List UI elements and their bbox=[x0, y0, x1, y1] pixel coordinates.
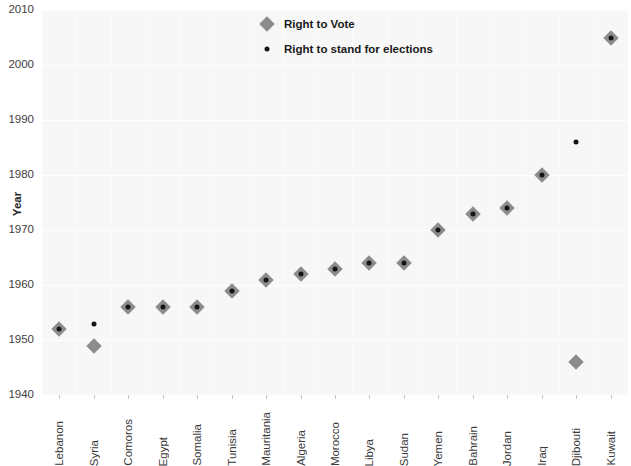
gridline-vertical bbox=[283, 10, 284, 395]
gridline-vertical bbox=[421, 10, 422, 395]
data-point-right-to-stand[interactable] bbox=[470, 211, 475, 216]
x-axis-tick-mark bbox=[576, 395, 577, 399]
x-axis-tick-mark bbox=[404, 395, 405, 399]
legend-item-right-to-vote[interactable]: Right to Vote bbox=[258, 14, 433, 33]
gridline-vertical bbox=[145, 10, 146, 395]
x-axis-tick-label: Iraq bbox=[536, 446, 548, 466]
gridline-horizontal bbox=[42, 285, 628, 286]
gridline-vertical bbox=[352, 10, 353, 395]
x-axis-tick-mark bbox=[335, 395, 336, 399]
x-axis-tick-label: Tunisia bbox=[226, 429, 238, 466]
gridline-vertical bbox=[525, 10, 526, 395]
x-axis-tick-label: Kuwait bbox=[605, 431, 617, 466]
x-axis-tick-label: Jordan bbox=[501, 431, 513, 466]
x-axis-tick-mark bbox=[369, 395, 370, 399]
x-axis-tick-mark bbox=[611, 395, 612, 399]
gridline-horizontal bbox=[42, 340, 628, 341]
data-point-right-to-stand[interactable] bbox=[333, 266, 338, 271]
x-axis-tick-mark bbox=[438, 395, 439, 399]
x-axis-tick-label: Libya bbox=[363, 439, 375, 466]
x-axis-tick-mark bbox=[507, 395, 508, 399]
x-axis-tick-mark bbox=[94, 395, 95, 399]
x-axis-tick-labels: LebanonSyriaComorosEgyptSomaliaTunisiaMa… bbox=[42, 395, 628, 466]
chart-legend: Right to Vote Right to stand for electio… bbox=[258, 14, 433, 64]
dot-marker-icon bbox=[258, 42, 276, 56]
x-axis-tick-label: Lebanon bbox=[53, 421, 65, 466]
x-axis-tick-mark bbox=[266, 395, 267, 399]
data-point-right-to-stand[interactable] bbox=[574, 140, 579, 145]
x-axis-tick-mark bbox=[473, 395, 474, 399]
x-axis-tick-label: Syria bbox=[88, 440, 100, 466]
x-axis-tick-mark bbox=[232, 395, 233, 399]
gridline-horizontal bbox=[42, 120, 628, 121]
y-axis-tick-label: 1940 bbox=[8, 388, 34, 400]
x-axis-tick-label: Djibouti bbox=[570, 428, 582, 466]
x-axis-tick-label: Morocco bbox=[329, 422, 341, 466]
data-point-right-to-stand[interactable] bbox=[436, 228, 441, 233]
gridline-vertical bbox=[456, 10, 457, 395]
data-point-right-to-stand[interactable] bbox=[505, 206, 510, 211]
gridline-vertical bbox=[214, 10, 215, 395]
legend-item-label: Right to Vote bbox=[284, 18, 355, 30]
legend-item-label: Right to stand for elections bbox=[284, 43, 433, 55]
x-axis-tick-label: Somalia bbox=[191, 424, 203, 466]
diamond-marker-icon bbox=[258, 17, 276, 31]
gridline-vertical bbox=[111, 10, 112, 395]
data-point-right-to-vote[interactable] bbox=[569, 354, 585, 370]
x-axis-tick-mark bbox=[301, 395, 302, 399]
gridline-vertical bbox=[490, 10, 491, 395]
x-axis-tick-label: Comoros bbox=[122, 419, 134, 466]
x-axis-tick-mark bbox=[59, 395, 60, 399]
data-point-right-to-stand[interactable] bbox=[264, 277, 269, 282]
gridline-vertical bbox=[387, 10, 388, 395]
y-axis-tick-label: 2010 bbox=[8, 3, 34, 15]
gridline-vertical bbox=[559, 10, 560, 395]
gridline-vertical bbox=[76, 10, 77, 395]
x-axis-tick-label: Yemen bbox=[432, 431, 444, 466]
x-axis-tick-label: Sudan bbox=[398, 433, 410, 466]
data-point-right-to-stand[interactable] bbox=[160, 305, 165, 310]
gridline-vertical bbox=[594, 10, 595, 395]
data-point-right-to-stand[interactable] bbox=[57, 327, 62, 332]
legend-item-right-to-stand[interactable]: Right to stand for elections bbox=[258, 39, 433, 58]
data-point-right-to-stand[interactable] bbox=[608, 35, 613, 40]
data-point-right-to-stand[interactable] bbox=[367, 261, 372, 266]
y-axis-title: Year bbox=[11, 174, 23, 234]
gridline-horizontal bbox=[42, 10, 628, 11]
data-point-right-to-stand[interactable] bbox=[126, 305, 131, 310]
gridline-vertical bbox=[318, 10, 319, 395]
gridline-vertical bbox=[249, 10, 250, 395]
x-axis-tick-label: Algeria bbox=[295, 430, 307, 466]
x-axis-tick-label: Egypt bbox=[157, 437, 169, 466]
y-axis-tick-label: 1950 bbox=[8, 333, 34, 345]
y-axis-tick-label: 1960 bbox=[8, 278, 34, 290]
data-point-right-to-stand[interactable] bbox=[401, 261, 406, 266]
scatter-chart: 19401950196019701980199020002010 Year Le… bbox=[0, 0, 631, 466]
gridline-horizontal bbox=[42, 230, 628, 231]
data-point-right-to-stand[interactable] bbox=[298, 272, 303, 277]
gridline-vertical bbox=[180, 10, 181, 395]
data-point-right-to-stand[interactable] bbox=[229, 288, 234, 293]
y-axis-tick-label: 1990 bbox=[8, 113, 34, 125]
data-point-right-to-stand[interactable] bbox=[195, 305, 200, 310]
x-axis-tick-mark bbox=[197, 395, 198, 399]
x-axis-tick-mark bbox=[128, 395, 129, 399]
plot-area bbox=[42, 10, 628, 395]
x-axis-tick-mark bbox=[163, 395, 164, 399]
x-axis-tick-label: Mauritania bbox=[260, 412, 272, 466]
x-axis-tick-mark bbox=[542, 395, 543, 399]
x-axis-tick-label: Bahrain bbox=[467, 426, 479, 466]
data-point-right-to-stand[interactable] bbox=[91, 321, 96, 326]
y-axis-tick-label: 2000 bbox=[8, 58, 34, 70]
gridline-horizontal bbox=[42, 65, 628, 66]
data-point-right-to-stand[interactable] bbox=[539, 173, 544, 178]
